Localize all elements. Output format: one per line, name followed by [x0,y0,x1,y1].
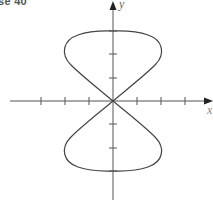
y-axis-label: y [119,0,124,12]
polar-plot [0,0,213,204]
y-axis-arrow-icon [110,1,117,10]
x-axis-label: x [207,103,212,118]
